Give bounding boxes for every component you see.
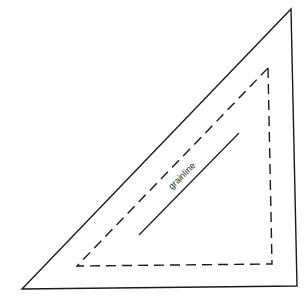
pattern-diagram: grainline [0, 0, 306, 297]
triangle-pattern-figure: grainline [0, 0, 306, 297]
inner-seam-line [77, 68, 272, 266]
grainline-arrow-line [139, 133, 239, 235]
outer-cutting-line [22, 9, 297, 289]
grainline-label: grainline [166, 160, 197, 191]
